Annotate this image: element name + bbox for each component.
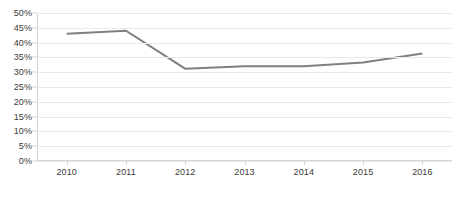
gridline (37, 117, 452, 118)
plot-area (37, 13, 452, 161)
x-tick-mark (126, 161, 127, 165)
gridline (37, 102, 452, 103)
x-tick-mark (245, 161, 246, 165)
y-tick-mark (32, 131, 37, 132)
y-tick-mark (32, 87, 37, 88)
x-tick-label: 2016 (412, 168, 432, 177)
y-tick-mark (32, 27, 37, 28)
gridline (37, 87, 452, 88)
y-tick-mark (32, 116, 37, 117)
y-tick-label: 20% (14, 97, 32, 106)
y-tick-label: 15% (14, 112, 32, 121)
y-tick-label: 50% (14, 9, 32, 18)
y-tick-mark (32, 72, 37, 73)
y-tick-label: 25% (14, 83, 32, 92)
x-tick-mark (304, 161, 305, 165)
y-tick-mark (32, 101, 37, 102)
gridline (37, 43, 452, 44)
x-tick-label: 2011 (116, 168, 136, 177)
y-tick-mark (32, 161, 37, 162)
line-chart: 0%5%10%15%20%25%30%35%40%45%50% 20102011… (0, 0, 457, 197)
y-axis: 0%5%10%15%20%25%30%35%40%45%50% (0, 0, 36, 197)
y-tick-label: 0% (19, 157, 32, 166)
y-tick-label: 10% (14, 127, 32, 136)
x-tick-label: 2012 (175, 168, 195, 177)
gridline (37, 72, 452, 73)
y-tick-label: 40% (14, 38, 32, 47)
y-tick-label: 5% (19, 142, 32, 151)
gridline (37, 13, 452, 14)
x-tick-label: 2015 (353, 168, 373, 177)
y-tick-label: 35% (14, 53, 32, 62)
gridline (37, 146, 452, 147)
y-tick-label: 30% (14, 68, 32, 77)
y-tick-label: 45% (14, 23, 32, 32)
x-tick-mark (422, 161, 423, 165)
gridline (37, 57, 452, 58)
gridline (37, 131, 452, 132)
x-axis: 2010201120122013201420152016 (37, 166, 452, 190)
y-tick-mark (32, 146, 37, 147)
x-tick-label: 2013 (234, 168, 254, 177)
x-tick-mark (185, 161, 186, 165)
x-tick-mark (67, 161, 68, 165)
x-tick-label: 2010 (56, 168, 76, 177)
y-tick-mark (32, 57, 37, 58)
y-tick-mark (32, 42, 37, 43)
y-tick-mark (32, 13, 37, 14)
x-tick-label: 2014 (294, 168, 314, 177)
x-tick-mark (363, 161, 364, 165)
gridline (37, 28, 452, 29)
